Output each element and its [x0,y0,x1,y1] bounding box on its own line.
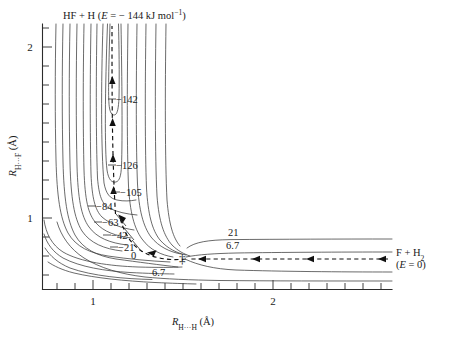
contour-label-neg126: −126 [116,160,138,171]
contour-label-neg42: −42 [111,230,127,241]
y-axis-tick-label-2: 2 [27,41,33,53]
potential-energy-surface-figure: HF + H (E = − 144 kJ mol−1) F + H2 (E = … [0,0,451,341]
x-axis-tick-label-1: 1 [90,295,96,307]
contour-label-neg142: −142 [116,94,138,105]
y-axis-tick-label-1: 1 [27,212,33,224]
reactant-channel-label-line2: (E = 0) [396,259,426,271]
contour-label-6p7-right: 6.7 [226,240,239,251]
contour-label-neg84: −84 [96,201,113,212]
contour-plot-canvas: HF + H (E = − 144 kJ mol−1) F + H2 (E = … [0,0,451,341]
contour-label-neg63: −63 [102,217,118,228]
x-axis-tick-label-2: 2 [270,295,276,307]
contour-label-6p7-left: 6.7 [152,267,165,278]
product-channel-label: HF + H (E = − 144 kJ mol−1) [63,8,186,23]
contour-label-neg105: −105 [120,187,142,198]
contour-label-zero: 0 [131,250,136,261]
contour-label-21: 21 [228,227,239,238]
transition-state-marker: ‡ [179,251,186,266]
